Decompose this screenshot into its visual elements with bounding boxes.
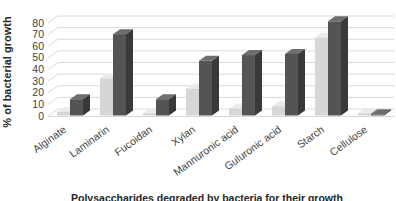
bar-front-face	[358, 113, 371, 115]
bar-dark-laminarin	[113, 29, 133, 115]
bar-front-face	[156, 99, 169, 115]
bar-dark-starch	[328, 16, 348, 115]
y-tick-label: 50	[32, 51, 44, 63]
y-tick-label: 70	[32, 28, 44, 40]
bar-dark-fucoidan	[156, 94, 176, 115]
bar-front-face	[315, 38, 328, 116]
y-tick-labels-group: 01020304050607080	[32, 17, 44, 122]
bar-chart: 01020304050607080 AlginateLaminarinFucoi…	[0, 0, 396, 201]
bar-front-face	[57, 112, 70, 115]
bar-front-face	[285, 54, 298, 116]
category-label: Xylan	[169, 123, 197, 148]
bar-side-face	[212, 56, 219, 116]
category-label: Laminarin	[67, 123, 111, 160]
y-axis-title: % of bacterial growth	[1, 16, 13, 128]
chart-canvas: 01020304050607080 AlginateLaminarinFucoi…	[0, 0, 396, 201]
bar-side-face	[126, 29, 133, 115]
bar-front-face	[113, 34, 126, 115]
bar-front-face	[199, 61, 212, 116]
bar-front-face	[272, 106, 285, 115]
bar-side-face	[255, 50, 262, 115]
y-tick-label: 60	[32, 40, 44, 52]
y-tick-label: 40	[32, 63, 44, 75]
category-labels-group: AlginateLaminarinFucoidanXylanMannuronic…	[30, 123, 369, 178]
bar-front-face	[186, 89, 199, 116]
y-tick-label: 30	[32, 75, 44, 87]
bar-front-face	[328, 21, 341, 115]
bar-side-face	[341, 16, 348, 115]
category-label: Fucoidan	[112, 123, 154, 158]
bar-front-face	[371, 114, 384, 115]
bar-front-face	[143, 113, 156, 115]
bar-front-face	[100, 78, 113, 115]
category-label: Alginate	[30, 123, 68, 155]
bar-front-face	[242, 55, 255, 115]
bar-dark-xylan	[199, 56, 219, 116]
bar-front-face	[70, 99, 83, 115]
bar-front-face	[229, 109, 242, 116]
y-tick-label: 10	[32, 98, 44, 110]
y-tick-label: 0	[38, 110, 44, 122]
bar-dark-guluronic-acid	[285, 49, 305, 116]
y-tick-label: 20	[32, 86, 44, 98]
y-tick-label: 80	[32, 17, 44, 29]
bar-dark-mannuronic-acid	[242, 50, 262, 115]
bar-dark-alginate	[70, 94, 90, 115]
x-axis-title: Polysaccharides degraded by bacteria for…	[71, 192, 343, 201]
category-label: Cellulose	[327, 123, 369, 158]
bar-side-face	[298, 49, 305, 116]
bars-group	[57, 16, 391, 115]
category-label: Starch	[295, 123, 327, 151]
